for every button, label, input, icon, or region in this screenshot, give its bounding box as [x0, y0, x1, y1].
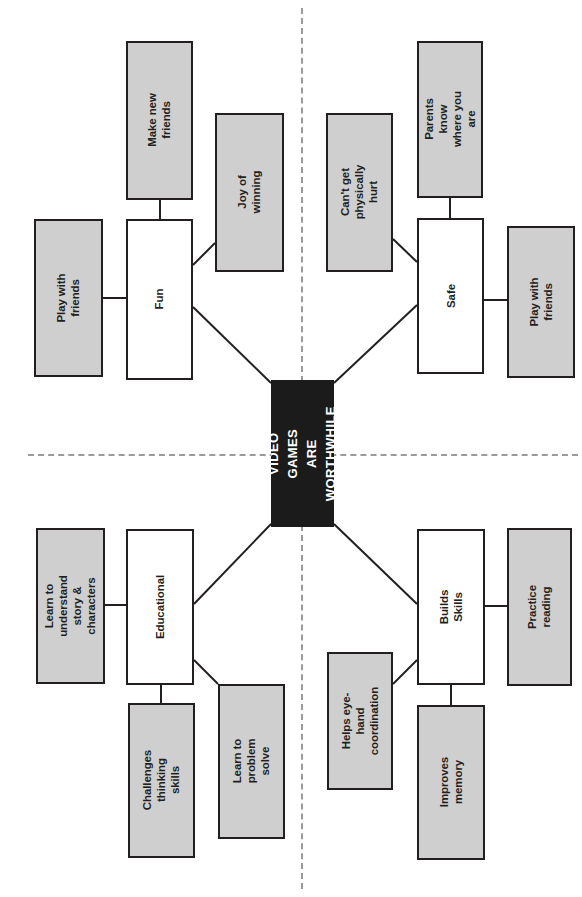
- sub-node-safe-cant-get-physically-hurt[interactable]: Can't get physically hurt: [326, 113, 393, 272]
- sub-node-skills-helps-eye-hand-coordination[interactable]: Helps eye-hand coordination: [327, 652, 393, 790]
- sub-node-edu-learn-to-problem-solve[interactable]: Learn to problem solve: [218, 684, 285, 839]
- sub-node-edu-challenges-thinking-skills-label: Challenges thinking skills: [140, 749, 182, 812]
- branch-node-safe[interactable]: Safe: [417, 218, 484, 374]
- sub-node-fun-play-with-friends-label: Play with friends: [54, 266, 82, 331]
- sub-node-fun-make-new-friends-label: Make new friends: [145, 89, 173, 152]
- connector-center-to-builds-skills: [334, 524, 417, 604]
- connector-builds-skills-to-helps-eye-hand: [393, 660, 417, 684]
- connector-center-to-fun: [193, 307, 271, 383]
- sub-node-fun-make-new-friends[interactable]: Make new friends: [126, 41, 193, 200]
- sub-node-fun-joy-of-winning[interactable]: Joy of winning: [215, 113, 284, 272]
- sub-node-safe-parents-know-where-you-are[interactable]: Parents know where you are: [417, 41, 483, 198]
- branch-node-educational[interactable]: Educational: [126, 529, 194, 685]
- connector-educational-to-learn-to-problem-solve: [194, 660, 218, 684]
- sub-node-safe-parents-know-where-you-are-label: Parents know where you are: [422, 89, 478, 151]
- center-node[interactable]: VIDEO GAMES ARE WORTHWHILE: [271, 380, 334, 527]
- sub-node-safe-play-with-friends[interactable]: Play with friends: [507, 226, 575, 378]
- branch-node-builds-skills[interactable]: Builds Skills: [417, 529, 485, 685]
- sub-node-edu-challenges-thinking-skills[interactable]: Challenges thinking skills: [128, 703, 195, 858]
- sub-node-fun-joy-of-winning-label: Joy of winning: [235, 160, 263, 225]
- sub-node-skills-practice-reading[interactable]: Practice reading: [507, 528, 572, 686]
- connector-fun-to-joy-of-winning: [193, 243, 215, 265]
- sub-node-edu-learn-to-understand-story-characters[interactable]: Learn to understand story & characters: [36, 528, 105, 684]
- sub-node-edu-learn-to-understand-story-characters-label: Learn to understand story & characters: [42, 574, 98, 639]
- sub-node-edu-learn-to-problem-solve-label: Learn to problem solve: [230, 730, 272, 793]
- sub-node-safe-cant-get-physically-hurt-label: Can't get physically hurt: [338, 161, 380, 224]
- sub-node-fun-play-with-friends[interactable]: Play with friends: [34, 219, 103, 377]
- branch-node-builds-skills-label: Builds Skills: [437, 575, 465, 639]
- sub-node-skills-improves-memory[interactable]: Improves memory: [417, 705, 485, 860]
- branch-node-fun-label: Fun: [152, 289, 166, 310]
- connector-safe-to-cant-get-physically-hurt: [393, 239, 417, 262]
- sub-node-skills-improves-memory-label: Improves memory: [437, 751, 465, 815]
- connector-center-to-safe: [334, 305, 417, 383]
- sub-node-skills-practice-reading-label: Practice reading: [525, 577, 553, 638]
- branch-node-safe-label: Safe: [443, 284, 457, 308]
- branch-node-fun[interactable]: Fun: [126, 219, 193, 380]
- branch-node-educational-label: Educational: [153, 575, 167, 639]
- connector-center-to-educational: [194, 524, 271, 604]
- sub-node-skills-helps-eye-hand-coordination-label: Helps eye-hand coordination: [339, 687, 381, 755]
- center-node-label: VIDEO GAMES ARE WORTHWHILE: [271, 406, 334, 501]
- mind-map-canvas: VIDEO GAMES ARE WORTHWHILE Fun Play with…: [0, 0, 582, 897]
- sub-node-safe-play-with-friends-label: Play with friends: [527, 270, 555, 334]
